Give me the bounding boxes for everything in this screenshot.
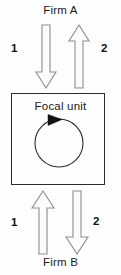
- firm-a-label: Firm A: [0, 4, 121, 16]
- firm-b-label: Firm B: [0, 256, 121, 268]
- up-arrow-top-right: [67, 24, 91, 90]
- up-arrow-bottom-left: [30, 190, 56, 256]
- flow-number-bottom-left: 1: [11, 216, 17, 228]
- flow-number-top-right: 2: [101, 42, 107, 54]
- flow-number-bottom-right: 2: [93, 215, 99, 227]
- focal-unit-label: Focal unit: [0, 100, 121, 112]
- down-arrow-bottom-right: [64, 190, 90, 256]
- flow-number-top-left: 1: [11, 42, 17, 54]
- supply-chain-flow-diagram: Firm A 1 2 Focal unit 1 2 Firm B: [0, 0, 121, 275]
- clockwise-circular-arrow: [30, 113, 88, 171]
- down-arrow-top-left: [34, 24, 58, 90]
